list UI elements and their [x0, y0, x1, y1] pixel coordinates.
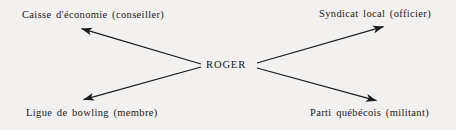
- node-label-caisse-deconomie: Caisse d'économie (conseiller): [22, 10, 164, 21]
- arrow-to-ligue-de-bowling: [84, 67, 202, 100]
- node-label-syndicat-local: Syndicat local (officier): [319, 9, 431, 20]
- node-label-parti-quebecois: Parti québécois (militant): [310, 108, 429, 119]
- center-node-label-roger: ROGER: [206, 60, 246, 71]
- arrow-to-caisse-deconomie: [82, 29, 202, 64]
- node-label-ligue-de-bowling: Ligue de bowling (membre): [26, 108, 158, 119]
- arrow-to-syndicat-local: [257, 27, 384, 63]
- arrow-to-parti-quebecois: [257, 68, 377, 101]
- diagram-canvas: Caisse d'économie (conseiller) Syndicat …: [0, 0, 456, 130]
